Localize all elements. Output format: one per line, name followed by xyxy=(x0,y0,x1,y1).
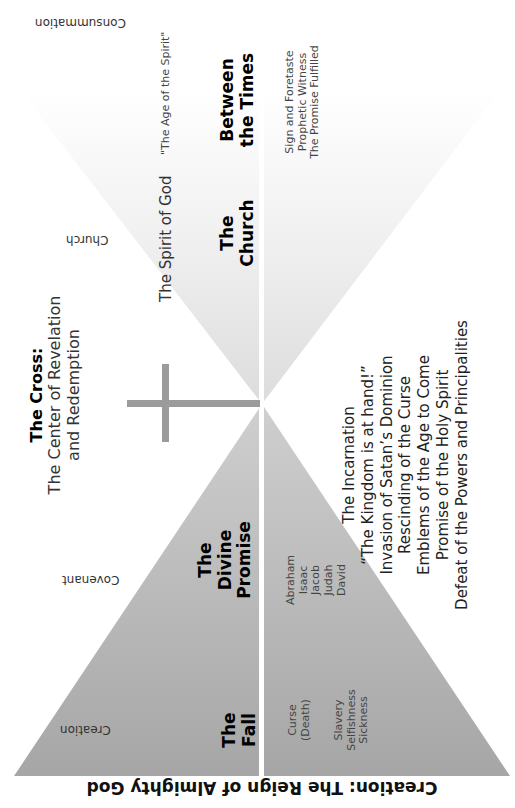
church-heading: The Church xyxy=(218,188,257,278)
between-heading: Between the Times xyxy=(218,50,257,150)
timeline-creation: Creation xyxy=(60,723,111,737)
fall-consequences: Slavery Selfishness Sickness xyxy=(333,680,371,760)
cross-beam-horizontal xyxy=(127,400,260,407)
cross-beam-vertical xyxy=(162,364,169,442)
timeline-divider xyxy=(259,60,264,780)
age-of-spirit: "The Age of the Spirit" xyxy=(160,32,173,155)
patriarch-list: Abraham Isaac Jacob Judah David xyxy=(285,550,348,610)
spirit-of-god: The Spirit of God xyxy=(158,176,175,302)
timeline-consummation: Consummation xyxy=(35,16,126,30)
timeline-church: Church xyxy=(66,233,108,247)
cross-events: The Incarnation “The Kingdom is at hand!… xyxy=(340,255,471,675)
between-items: Sign and Foretaste Prophetic Witness The… xyxy=(284,42,322,162)
diagram-canvas: Creation: The Reign of Almighty God Crea… xyxy=(0,0,515,808)
fall-items: Curse (Death) xyxy=(287,675,312,765)
promise-heading: The Divine Promise xyxy=(196,500,255,620)
timeline-covenant: Covenant xyxy=(62,573,119,587)
fall-heading: The Fall xyxy=(220,690,259,770)
cross-title: The Cross: The Center of Revelation and … xyxy=(28,290,83,500)
diagram-title: Creation: The Reign of Almighty God xyxy=(22,778,502,798)
